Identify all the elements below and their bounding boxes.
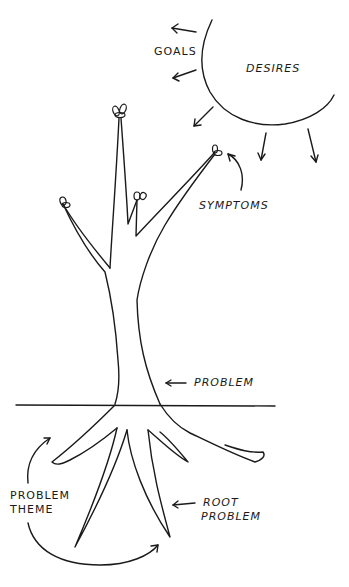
root-center-long — [127, 430, 170, 537]
sun-ray-right — [308, 129, 318, 162]
label-symptoms: SYMPTOMS — [199, 199, 269, 213]
tree-small-branch — [136, 152, 215, 236]
root-problem-arrow — [173, 501, 195, 508]
tree-trunk-left-edge — [63, 204, 119, 404]
root-far-left — [52, 405, 117, 464]
problem-theme-arrow-down — [28, 523, 158, 565]
ground-line — [16, 405, 275, 406]
problem-theme-arrow-up — [28, 438, 50, 483]
bud-top — [111, 103, 127, 117]
problem-tree-diagram: GOALS DESIRES SYMPTOMS PROBLEM PROBLEM T… — [0, 0, 349, 587]
label-goals: GOALS — [154, 45, 197, 59]
tree-center-branch-right — [121, 118, 137, 224]
label-root-problem-line2: PROBLEM — [201, 510, 261, 524]
label-problem-theme-line1: PROBLEM — [10, 489, 70, 503]
root-right-short — [148, 430, 188, 462]
tree-right-branch — [137, 154, 215, 404]
sun-ray-left — [194, 107, 213, 126]
goals-arrow-top — [172, 24, 196, 33]
label-root-problem-line1: ROOT — [203, 496, 239, 510]
problem-arrow — [166, 380, 186, 386]
label-desires: DESIRES — [246, 62, 300, 76]
symptoms-arrow — [228, 154, 242, 190]
tree-center-branch — [110, 118, 119, 268]
label-problem-theme-line2: THEME — [10, 503, 53, 517]
bud-middle — [134, 191, 147, 200]
root-left-long — [75, 428, 127, 547]
label-problem: PROBLEM — [194, 376, 254, 390]
sun-ray-middle — [258, 133, 266, 160]
bud-right — [213, 145, 223, 156]
tree-left-branch-inner — [63, 204, 110, 268]
goals-arrow-bottom — [173, 70, 196, 81]
